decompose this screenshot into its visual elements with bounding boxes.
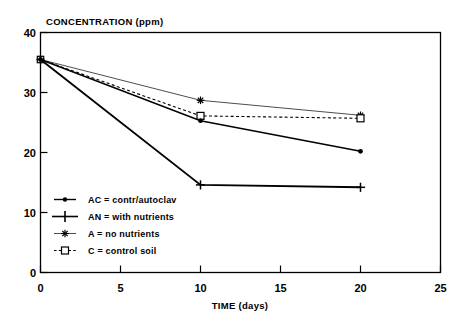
y-axis-title: CONCENTRATION (ppm) (46, 16, 163, 27)
x-tick-label-15: 15 (274, 282, 286, 294)
chart-figure: 0 10 20 30 40 0 5 10 15 20 25 CONCENTRAT… (0, 0, 471, 319)
legend-label-an: AN = with nutrients (88, 212, 174, 222)
x-tick-label-25: 25 (434, 282, 446, 294)
y-tick-label-20: 20 (24, 147, 36, 159)
y-tick-label-10: 10 (24, 207, 36, 219)
x-tick-label-20: 20 (354, 282, 366, 294)
x-tick-label-10: 10 (194, 282, 206, 294)
x-tick-label-0: 0 (37, 282, 43, 294)
legend-label-a: A = no nutrients (88, 229, 160, 239)
x-tick-label-5: 5 (117, 282, 123, 294)
chart-canvas: 0 10 20 30 40 0 5 10 15 20 25 CONCENTRAT… (0, 0, 471, 319)
y-tick-label-40: 40 (24, 27, 36, 39)
legend-label-ac: AC = contr/autoclav (88, 195, 177, 205)
y-tick-label-30: 30 (24, 87, 36, 99)
legend-label-c: C = control soil (88, 246, 156, 256)
x-axis-title: TIME (days) (212, 300, 269, 311)
chart-background (0, 0, 471, 319)
y-tick-label-0: 0 (30, 267, 36, 279)
